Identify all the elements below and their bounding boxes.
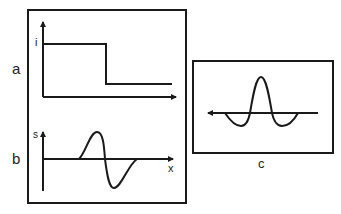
panel-b-y-axis-label: s <box>33 130 38 140</box>
panel-b-x-axis-label: x <box>168 163 174 174</box>
panel-c-frame <box>193 61 333 153</box>
panel-a-y-axis-label: i <box>35 37 37 48</box>
panel-c-label: c <box>258 157 265 170</box>
panel-a-label: a <box>12 61 20 76</box>
panel-c <box>208 77 318 126</box>
panel-c-peak-curve <box>225 77 298 126</box>
panel-b-label: b <box>12 151 20 166</box>
panel-a <box>43 22 176 97</box>
diagram-canvas <box>0 0 341 214</box>
panel-a-step-curve <box>44 44 172 84</box>
panel-b <box>43 132 173 191</box>
